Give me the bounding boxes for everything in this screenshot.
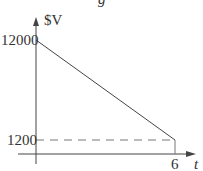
depreciation-chart: g $V 12000 1200 6 t bbox=[0, 0, 203, 171]
y-axis-arrow-icon bbox=[33, 17, 39, 26]
y-axis-label: $V bbox=[44, 12, 63, 28]
y-tick-12000: 12000 bbox=[1, 32, 39, 48]
value-line bbox=[36, 40, 175, 140]
x-axis-label: t bbox=[194, 156, 199, 171]
cut-off-title-fragment: g bbox=[98, 0, 106, 7]
y-tick-1200: 1200 bbox=[7, 132, 37, 148]
x-tick-6: 6 bbox=[171, 156, 179, 171]
